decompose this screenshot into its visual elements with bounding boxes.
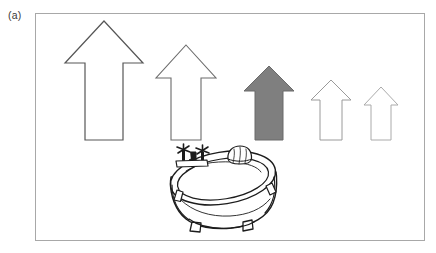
figure-canvas (0, 0, 436, 253)
faucet-base (176, 160, 208, 167)
figure-panel: (a) (0, 0, 436, 253)
